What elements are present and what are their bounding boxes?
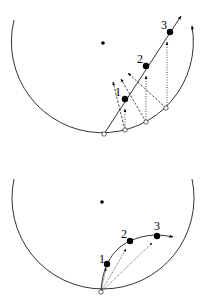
top-diagram: 1 2 3 bbox=[11, 16, 193, 136]
circle-point bbox=[144, 120, 148, 124]
circle-center bbox=[101, 41, 105, 45]
point-label-2: 2 bbox=[121, 227, 127, 241]
circle-arc bbox=[11, 20, 193, 133]
point-label-1: 1 bbox=[115, 85, 121, 99]
point-label-1: 1 bbox=[99, 252, 105, 266]
trajectory-point-2 bbox=[143, 63, 149, 69]
trajectory-point-1 bbox=[122, 96, 128, 102]
point-label-3: 3 bbox=[161, 18, 167, 32]
trajectory-curve bbox=[101, 235, 173, 292]
circle-point bbox=[123, 128, 127, 132]
circle-point bbox=[102, 132, 106, 136]
trajectory-point-2 bbox=[127, 238, 133, 244]
trajectory-point-3 bbox=[167, 29, 173, 35]
dashed-arrow-3 bbox=[128, 73, 166, 108]
chord-arrow-1 bbox=[101, 268, 106, 292]
circle-center bbox=[100, 200, 104, 204]
chord-arrow-3 bbox=[101, 243, 152, 292]
diagram-canvas: 1 2 3 1 2 3 bbox=[0, 0, 207, 298]
circle-arc bbox=[12, 179, 194, 289]
trajectory-point-3 bbox=[154, 233, 160, 239]
bottom-diagram: 1 2 3 bbox=[12, 179, 194, 294]
point-label-2: 2 bbox=[137, 52, 143, 66]
origin-point bbox=[99, 290, 103, 294]
point-label-3: 3 bbox=[154, 219, 160, 233]
circle-point bbox=[164, 106, 168, 110]
